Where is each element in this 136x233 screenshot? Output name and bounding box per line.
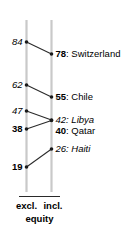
value-label-qatar-incl: 40: Qatar <box>56 125 96 136</box>
country-name-haiti: Haiti <box>71 143 91 154</box>
value-label-haiti-incl: 26: Haiti <box>55 143 92 154</box>
country-name-libya: Libya <box>71 114 94 125</box>
value-label-switzerland-incl: 78: Switzerland <box>56 48 121 59</box>
data-point-qatar-excl <box>25 127 29 131</box>
country-name-chile: Chile <box>71 91 93 102</box>
value-label-qatar-excl: 38 <box>12 123 23 134</box>
slope-line-switzerland <box>27 42 52 54</box>
value-label-switzerland-excl: 84 <box>12 36 23 47</box>
data-point-qatar-incl <box>50 119 54 123</box>
data-point-chile-excl <box>25 83 29 87</box>
slope-line-libya <box>27 111 52 120</box>
slope-line-qatar <box>27 121 52 130</box>
value-number-chile: 55 <box>56 91 67 102</box>
data-point-haiti-excl <box>25 165 29 169</box>
data-point-switzerland-incl <box>50 52 54 56</box>
value-label-chile-excl: 62 <box>12 79 23 90</box>
axis-caption-equity: equity <box>26 213 55 224</box>
data-point-haiti-incl <box>50 147 54 151</box>
slope-line-haiti <box>27 149 52 167</box>
slope-line-chile <box>27 85 52 97</box>
value-number-libya: 42 <box>56 114 67 125</box>
value-number-switzerland: 78 <box>56 48 67 59</box>
slopegraph-chart: 84 78: Switzerland 62 55: Chile 47 42: L… <box>0 0 136 233</box>
country-name-switzerland: Switzerland <box>71 48 120 59</box>
value-label-chile-incl: 55: Chile <box>56 91 94 102</box>
axis-caption-excl: excl. <box>16 200 37 211</box>
country-name-qatar: Qatar <box>71 125 95 136</box>
axis-caption-incl: incl. <box>43 200 62 211</box>
data-point-chile-incl <box>50 95 54 99</box>
data-point-switzerland-excl <box>25 40 29 44</box>
data-point-libya-excl <box>25 109 29 113</box>
value-number-qatar: 40 <box>56 125 67 136</box>
value-label-libya-excl: 47 <box>12 105 23 116</box>
value-label-libya-incl: 42: Libya <box>56 114 95 125</box>
value-label-haiti-excl: 19 <box>12 161 23 172</box>
value-number-haiti: 26 <box>55 143 67 154</box>
